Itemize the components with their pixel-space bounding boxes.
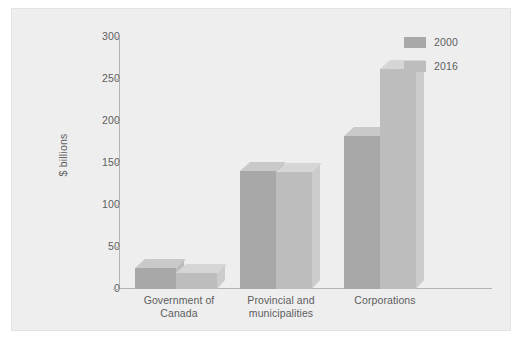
category-label-corporations: Corporations (330, 294, 440, 307)
y-tick-250: 250 (64, 79, 120, 80)
category-label-line: Provincial and (225, 294, 337, 307)
y-tick-150: 150 (64, 163, 120, 164)
bar-front-face (176, 273, 217, 289)
legend-item-2000[interactable]: 2000 (404, 33, 504, 51)
y-tick-0: 0 (64, 289, 120, 290)
y-tick-300: 300 (64, 37, 120, 38)
bar-2000-provincial-and-municipalities[interactable] (240, 171, 276, 289)
legend-item-2016[interactable]: 2016 (404, 57, 504, 75)
bar-front-face (276, 172, 312, 289)
legend-label-2000: 2000 (434, 36, 458, 48)
category-label-government-of-canada: Government of Canada (124, 294, 234, 320)
y-tick-200: 200 (64, 121, 120, 122)
category-label-line: municipalities (225, 307, 337, 320)
y-tick-mark (113, 289, 120, 290)
y-tick-50: 50 (64, 247, 120, 248)
bar-2016-corporations[interactable] (380, 69, 416, 289)
bar-front-face (240, 171, 276, 289)
figure-panel: $ billions 300 250 200 150 100 (11, 8, 511, 331)
y-tick-mark (113, 37, 120, 38)
bar-side-face (312, 163, 320, 289)
y-tick-mark (113, 205, 120, 206)
y-tick-mark (113, 247, 120, 248)
bar-2016-provincial-and-municipalities[interactable] (276, 172, 312, 289)
category-label-provincial-and-municipalities: Provincial and municipalities (225, 294, 337, 320)
category-label-line: Canada (124, 307, 234, 320)
bar-front-face (380, 69, 416, 289)
legend-swatch-2000 (404, 37, 426, 48)
bar-2000-government-of-canada[interactable] (135, 268, 176, 289)
bar-side-face (416, 60, 424, 289)
legend: 2000 2016 (404, 33, 504, 81)
bar-2016-government-of-canada[interactable] (176, 273, 217, 289)
bar-2000-corporations[interactable] (344, 136, 380, 289)
chart-screenshot: $ billions 300 250 200 150 100 (0, 0, 523, 342)
y-tick-mark (113, 163, 120, 164)
y-tick-100: 100 (64, 205, 120, 206)
category-label-line: Corporations (330, 294, 440, 307)
legend-swatch-2016 (404, 61, 426, 72)
legend-label-2016: 2016 (434, 60, 458, 72)
y-tick-mark (113, 79, 120, 80)
plot-area: $ billions 300 250 200 150 100 (12, 9, 512, 332)
category-label-line: Government of (124, 294, 234, 307)
y-tick-mark (113, 121, 120, 122)
bar-front-face (135, 268, 176, 289)
y-axis-title: $ billions (57, 100, 69, 210)
bar-front-face (344, 136, 380, 289)
